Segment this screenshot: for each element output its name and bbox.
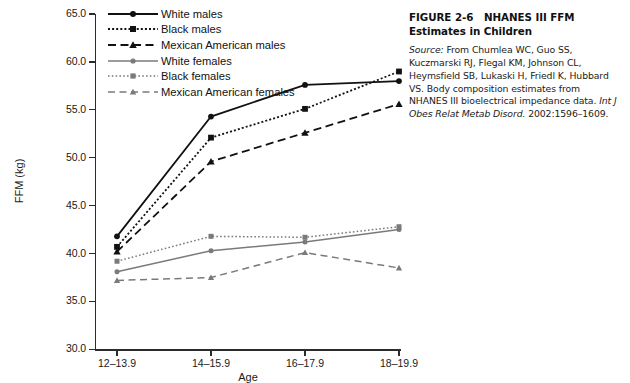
- legend-item-mexican-american-males: Mexican American males: [105, 37, 365, 53]
- caption-source: Source: From Chumlea WC, Guo SS, Kuczmar…: [409, 44, 621, 120]
- source-label: Source:: [409, 44, 444, 55]
- series-black-females: [115, 224, 402, 263]
- figure-number: FIGURE 2-6: [409, 11, 473, 23]
- series-line: [117, 104, 399, 252]
- legend-key-icon: [105, 38, 161, 52]
- data-point: [209, 248, 214, 253]
- data-point: [396, 69, 402, 75]
- figure-caption: FIGURE 2-6 NHANES III FFM Estimates in C…: [409, 10, 621, 121]
- legend-item-mexican-american-females: Mexican American females: [105, 84, 365, 100]
- chart-legend: White malesBlack malesMexican American m…: [105, 6, 365, 100]
- series-line: [117, 253, 399, 281]
- legend-key-icon: [105, 69, 161, 83]
- data-point: [396, 78, 402, 84]
- legend-label: Mexican American females: [161, 86, 295, 98]
- legend-item-white-females: White females: [105, 53, 365, 69]
- chart-panel: 30.035.040.045.050.055.060.065.0 12–13.9…: [0, 0, 404, 382]
- data-point: [396, 265, 402, 271]
- legend-label: White males: [161, 8, 223, 20]
- series-line: [117, 227, 399, 261]
- data-point: [397, 224, 402, 229]
- data-point: [114, 233, 120, 239]
- data-point: [209, 234, 214, 239]
- legend-label: White females: [161, 55, 232, 67]
- data-point: [302, 249, 308, 255]
- legend-key-icon: [105, 85, 161, 99]
- series-white-males: [114, 78, 402, 239]
- data-point: [303, 235, 308, 240]
- legend-key-icon: [105, 54, 161, 68]
- caption-title: FIGURE 2-6 NHANES III FFM Estimates in C…: [409, 10, 621, 38]
- data-point: [302, 106, 308, 112]
- legend-item-white-males: White males: [105, 6, 365, 22]
- legend-item-black-females: Black females: [105, 68, 365, 84]
- data-point: [395, 100, 402, 107]
- legend-label: Black females: [161, 70, 231, 82]
- data-point: [208, 135, 214, 141]
- series-line: [117, 81, 399, 236]
- series-mexican-american-females: [114, 249, 402, 282]
- legend-key-icon: [105, 22, 161, 36]
- citation-tail: 2002:1596–1609.: [528, 108, 608, 119]
- data-point: [208, 114, 214, 120]
- legend-item-black-males: Black males: [105, 22, 365, 38]
- legend-key-icon: [105, 7, 161, 21]
- data-point: [115, 259, 120, 264]
- legend-label: Mexican American males: [161, 39, 285, 51]
- data-point: [115, 269, 120, 274]
- data-point: [303, 240, 308, 245]
- legend-label: Black males: [161, 23, 221, 35]
